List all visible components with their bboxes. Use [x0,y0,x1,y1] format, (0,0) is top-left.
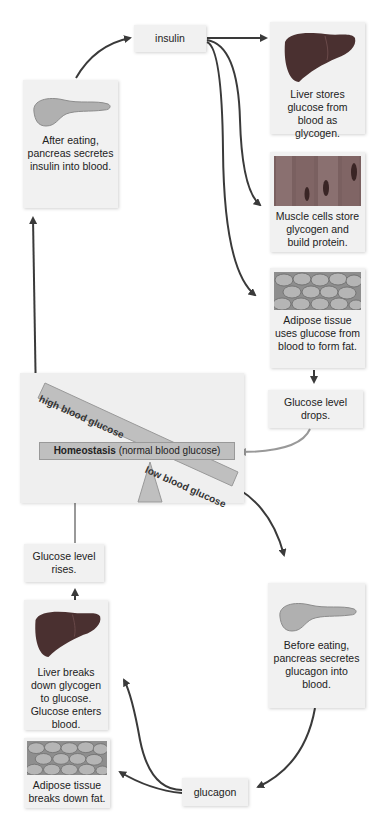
liver-stores-box: Liver stores glucose from blood as glyco… [270,22,365,134]
glucose-rises-text: Glucose level rises. [28,550,100,576]
adipose-forms-fat-box: Adipose tissue uses glucose from blood t… [270,268,365,368]
liver-icon [30,604,102,662]
liver-breaks-down-box: Liver breaks down glycogen to glucose. G… [24,600,108,730]
pancreas-icon [276,595,358,635]
adipose-breaks-fat-box: Adipose tissue breaks down fat. [24,738,110,808]
muscle-icon [274,156,361,206]
adipose-breaks-fat-text: Adipose tissue breaks down fat. [27,779,107,805]
glucose-drops-text: Glucose level drops. [272,396,359,422]
adipose-icon [274,272,361,310]
glucagon-label: glucagon [186,782,244,802]
pancreas-before-eating-text: Before eating, pancreas secretes glucago… [272,639,361,691]
homeostasis-rest: (normal blood glucose) [116,445,221,456]
glucose-rises-box: Glucose level rises. [24,544,104,582]
homeostasis-bar: Homeostasis (normal blood glucose) [39,442,235,460]
pancreas-after-eating-text: After eating, pancreas secretes insulin … [27,134,114,173]
insulin-label: insulin [138,29,202,48]
pancreas-before-eating-box: Before eating, pancreas secretes glucago… [268,583,365,708]
glucagon-box: glucagon [182,778,248,806]
insulin-box: insulin [134,25,206,52]
muscle-cells-box: Muscle cells store glycogen and build pr… [270,152,365,252]
glucose-drops-box: Glucose level drops. [268,390,363,428]
liver-breaks-down-text: Liver breaks down glycogen to glucose. G… [28,666,104,731]
homeostasis-bold: Homeostasis [54,445,116,456]
liver-icon [279,28,357,84]
pancreas-icon [30,90,112,130]
liver-stores-text: Liver stores glucose from blood as glyco… [274,88,361,140]
pancreas-after-eating-box: After eating, pancreas secretes insulin … [23,80,118,208]
homeostasis-seesaw-panel [20,373,244,503]
adipose-icon [27,741,107,775]
adipose-forms-fat-text: Adipose tissue uses glucose from blood t… [274,314,361,353]
muscle-cells-text: Muscle cells store glycogen and build pr… [274,210,361,249]
